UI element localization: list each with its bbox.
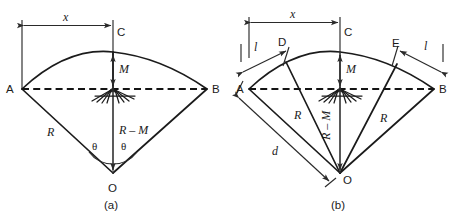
panel-b-l-right-ext-inner xyxy=(392,46,398,66)
panel-a-label-theta-left: θ xyxy=(92,140,97,152)
technical-diagram-svg: A B C O x M R R – M θ θ (a) xyxy=(0,0,472,217)
panel-b-label-A: A xyxy=(236,83,244,95)
panel-b-radius-EO xyxy=(340,64,397,173)
panel-b-dimension-d xyxy=(239,98,329,181)
panel-a-arc xyxy=(22,51,207,89)
panel-b-label-x: x xyxy=(289,7,296,21)
panel-a-label-M: M xyxy=(118,62,130,76)
panel-b-label-R-right: R xyxy=(379,111,388,125)
panel-b-radius-BO xyxy=(340,89,434,173)
panel-b-label-R-minus-M: R – M xyxy=(319,110,333,141)
panel-b-label-D: D xyxy=(278,36,286,48)
panel-b: A B C D E O x M l l R R R – M d (b) xyxy=(236,7,447,211)
panel-b-label-B: B xyxy=(439,83,447,95)
figure-root: A B C O x M R R – M θ θ (a) xyxy=(0,0,472,217)
panel-a-label-R: R xyxy=(46,125,55,139)
panel-a: A B C O x M R R – M θ θ (a) xyxy=(6,10,220,211)
panel-b-caption: (b) xyxy=(331,199,345,211)
panel-b-label-M: M xyxy=(345,62,357,76)
panel-a-caption: (a) xyxy=(104,199,118,211)
panel-b-label-C: C xyxy=(344,26,352,38)
panel-a-label-C: C xyxy=(117,26,125,38)
panel-a-label-A: A xyxy=(6,83,14,95)
panel-a-label-B: B xyxy=(212,83,220,95)
panel-b-label-l-left: l xyxy=(254,40,258,54)
panel-a-label-theta-right: θ xyxy=(121,140,126,152)
panel-a-label-R-minus-M: R – M xyxy=(118,123,149,137)
panel-b-arc xyxy=(249,51,434,89)
panel-a-label-O: O xyxy=(108,182,117,194)
panel-b-label-R-left: R xyxy=(293,108,302,122)
panel-b-label-d: d xyxy=(272,144,279,158)
panel-b-label-O: O xyxy=(343,174,352,186)
panel-b-label-l-right: l xyxy=(424,39,428,53)
panel-b-label-E: E xyxy=(392,37,400,49)
panel-a-label-x: x xyxy=(62,10,69,24)
panel-b-dimension-l-right xyxy=(400,51,441,72)
